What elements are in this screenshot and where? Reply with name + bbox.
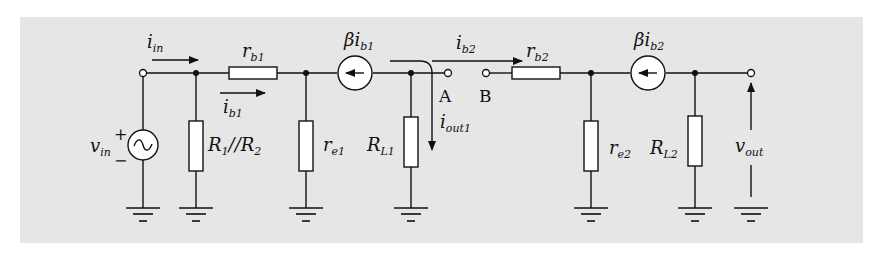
label-plus: + <box>114 125 127 144</box>
label-v-out: vout <box>735 135 764 159</box>
re2-branch <box>574 70 608 221</box>
ground-icon <box>734 208 768 221</box>
label-beta-ib2: βib2 <box>633 29 664 53</box>
ground-icon <box>179 208 213 221</box>
junction-node <box>193 70 199 76</box>
terminal-b <box>483 70 490 77</box>
terminal-a <box>445 70 452 77</box>
label-r-e1: re1 <box>323 134 345 158</box>
label-node-a: A <box>438 86 452 106</box>
junction-node <box>408 70 414 76</box>
ground-icon <box>574 208 608 221</box>
label-i-b1: ib1 <box>223 96 243 120</box>
label-r1-r2: R1//R2 <box>207 134 261 158</box>
resistor-rl1 <box>404 117 418 167</box>
label-r-l2: RL2 <box>649 137 678 161</box>
label-i-out1: iout1 <box>440 111 471 135</box>
label-minus: − <box>114 151 127 170</box>
current-source-1 <box>338 56 372 90</box>
rl1-branch <box>394 70 428 221</box>
resistor-r1-r2 <box>189 121 203 171</box>
label-node-b: B <box>479 86 492 106</box>
resistor-rl2 <box>688 116 702 166</box>
resistor-rb2 <box>512 67 560 79</box>
label-beta-ib1: βib1 <box>343 29 374 53</box>
ground-icon <box>394 208 428 221</box>
label-r-e2: re2 <box>609 137 631 161</box>
vin-source <box>126 76 160 221</box>
resistor-re1 <box>299 121 313 171</box>
current-source-2 <box>631 56 665 90</box>
resistor-re2 <box>584 121 598 171</box>
re1-branch <box>289 70 323 221</box>
junction-node <box>588 70 594 76</box>
input-terminal <box>140 70 147 77</box>
circuit-diagram: iin rb1 ib1 βib1 ib2 rb2 βib2 vin + − R1… <box>0 0 883 257</box>
label-i-in: iin <box>147 31 163 55</box>
rl2-branch <box>678 70 712 221</box>
ground-icon <box>289 208 323 221</box>
label-i-b2: ib2 <box>456 32 476 56</box>
ground-icon <box>678 208 712 221</box>
label-v-in: vin <box>90 135 111 159</box>
ground-icon <box>126 208 160 221</box>
label-r-l1: RL1 <box>366 134 395 158</box>
resistor-rb1 <box>229 67 277 79</box>
label-r-b2: rb2 <box>526 40 549 64</box>
junction-node <box>303 70 309 76</box>
output-terminal <box>748 70 755 77</box>
junction-node <box>692 70 698 76</box>
label-r-b1: rb1 <box>242 40 265 64</box>
